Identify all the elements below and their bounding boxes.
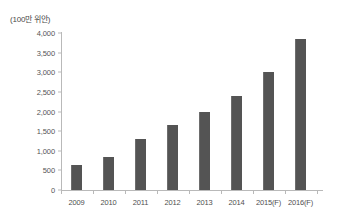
x-axis-tick-label: 2011 — [133, 198, 148, 207]
y-axis-tick-mark — [58, 72, 62, 73]
plot-area: 05001,0001,5002,0002,5003,0003,5004,000 — [62, 33, 322, 190]
y-axis-tick-mark — [58, 131, 62, 132]
bar-2013 — [199, 112, 210, 191]
y-axis-tick-mark — [58, 111, 62, 112]
x-axis-tick-label: 2014 — [229, 198, 245, 207]
y-axis-tick-mark — [58, 33, 62, 34]
x-axis-tick-label: 2015(F) — [256, 198, 281, 207]
bar-2016f — [295, 39, 306, 190]
x-axis-tick-mark — [189, 190, 190, 194]
x-axis-tick-mark — [61, 190, 62, 194]
x-axis-tick-mark — [317, 190, 318, 194]
x-axis-tick-mark — [221, 190, 222, 194]
bar-2009 — [71, 165, 82, 191]
x-axis-tick-mark — [157, 190, 158, 194]
y-axis-unit-label: (100만 위안) — [10, 13, 50, 24]
x-axis-tick-mark — [125, 190, 126, 194]
x-axis-tick-label: 2016(F) — [288, 198, 313, 207]
bar-2014 — [231, 96, 242, 190]
bar-chart: (100만 위안) 05001,0001,5002,0002,5003,0003… — [0, 0, 339, 221]
x-axis-tick-mark — [253, 190, 254, 194]
bar-2010 — [103, 157, 114, 190]
x-axis-tick-label: 2009 — [69, 198, 85, 207]
bar-2011 — [135, 139, 146, 190]
y-axis-tick-mark — [58, 150, 62, 151]
bar-2015f — [263, 72, 274, 190]
x-axis-tick-label: 2012 — [165, 198, 181, 207]
y-axis-tick-mark — [58, 52, 62, 53]
y-axis-tick-mark — [58, 170, 62, 171]
x-axis-tick-label: 2010 — [101, 198, 117, 207]
y-axis-tick-mark — [58, 91, 62, 92]
bar-2012 — [167, 125, 178, 190]
x-axis-tick-label: 2013 — [197, 198, 213, 207]
x-axis-tick-mark — [285, 190, 286, 194]
x-axis-tick-mark — [93, 190, 94, 194]
